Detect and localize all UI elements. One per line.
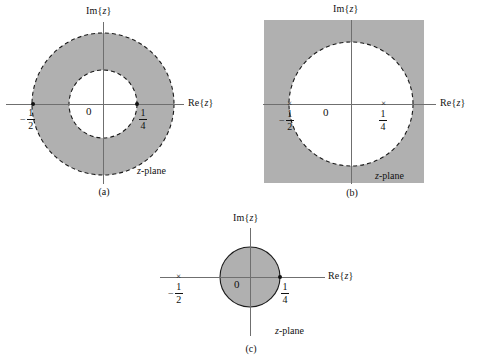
panel-b-pole-neg-half-marker: × [286, 100, 293, 107]
minus-sign: − [168, 289, 174, 299]
numerator: 1 [28, 108, 33, 118]
panel-b-label-neg-half: − 1 2 [279, 109, 294, 132]
numerator: 1 [381, 109, 386, 119]
panel-b-real-axis-label: Re{z} [440, 97, 466, 108]
panel-a-pole-neg-half-marker [31, 102, 35, 106]
panel-c-region-graphic [130, 200, 360, 363]
denominator: 4 [141, 121, 146, 131]
panel-c-real-axis [160, 277, 325, 278]
denominator: 2 [28, 121, 33, 131]
panel-c-imaginary-axis-label: Im{z} [233, 212, 259, 223]
panel-a-origin-label: 0 [86, 105, 92, 117]
panel-a-caption: (a) [93, 186, 115, 197]
panel-c-real-axis-label: Re{z} [328, 270, 354, 281]
panel-a-pole-quarter-marker [135, 102, 139, 106]
panel-a-label-neg-half: − 1 2 [20, 108, 35, 131]
denominator: 4 [283, 295, 288, 305]
denominator: 2 [287, 122, 292, 132]
panel-b: Re{z} Im{z} 0 × × − 1 2 1 4 z-plane (b) [245, 0, 489, 200]
panel-c: Re{z} Im{z} 0 × − 1 2 1 4 z-plane (c) [130, 200, 360, 363]
panel-a-real-axis-label: Re{z} [188, 97, 214, 108]
panel-c-label-neg-half: − 1 2 [168, 282, 183, 305]
denominator: 2 [176, 295, 181, 305]
panel-b-imaginary-axis [351, 20, 352, 184]
denominator: 4 [381, 122, 386, 132]
panel-c-plane-label: z-plane [275, 325, 304, 336]
panel-b-origin-label: 0 [323, 106, 329, 118]
panel-b-caption: (b) [341, 187, 363, 198]
minus-sign: − [279, 116, 285, 126]
panel-b-label-quarter: 1 4 [379, 109, 387, 132]
panel-b-pole-quarter-marker: × [380, 100, 387, 107]
minus-sign: − [20, 115, 26, 125]
numerator: 1 [141, 108, 146, 118]
panel-a-imaginary-axis [103, 22, 104, 184]
panel-c-pole-neg-half-marker: × [175, 273, 182, 280]
panel-c-pole-quarter-marker [278, 275, 282, 279]
numerator: 1 [283, 282, 288, 292]
panel-a: Re{z} Im{z} 0 − 1 2 1 4 z-plane (a) [0, 0, 245, 200]
panel-c-origin-label: 0 [234, 278, 240, 290]
panel-a-plane-label: z-plane [137, 165, 166, 176]
panel-c-imaginary-axis [250, 228, 251, 336]
numerator: 1 [287, 109, 292, 119]
panel-b-imaginary-axis-label: Im{z} [333, 3, 359, 14]
numerator: 1 [176, 282, 181, 292]
panel-c-label-quarter: 1 4 [281, 282, 289, 305]
panel-c-caption: (c) [240, 343, 262, 354]
panel-a-imaginary-axis-label: Im{z} [86, 5, 112, 16]
panel-b-plane-label: z-plane [375, 170, 404, 181]
panel-a-label-quarter: 1 4 [139, 108, 147, 131]
